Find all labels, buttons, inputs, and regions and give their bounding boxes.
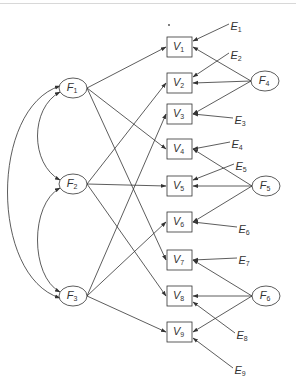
error-label-E5: E5 (235, 160, 246, 173)
error-label-E3: E3 (234, 114, 245, 127)
covariance-arrow-F1-F3 (8, 86, 61, 298)
path-arrow-F1-V7 (87, 88, 166, 260)
covariance-arrow-F2-F3 (38, 188, 61, 292)
error-label-E9: E9 (234, 364, 245, 377)
covariance-arrow-F1-F2 (38, 92, 61, 180)
error-label-E6: E6 (238, 223, 249, 236)
path-arrow-F1-V1 (87, 47, 166, 88)
path-arrow-F5-V6 (193, 186, 252, 222)
error-arrow-E6-V6 (193, 222, 237, 227)
error-arrow-E1-V1 (193, 24, 229, 41)
error-label-E4: E4 (231, 138, 242, 151)
path-arrow-F4-V3 (193, 81, 251, 114)
error-label-E8: E8 (236, 329, 247, 342)
path-arrow-F2-V2 (87, 83, 166, 184)
error-arrow-E3-V3 (193, 114, 233, 118)
error-label-E1: E1 (230, 20, 241, 33)
path-arrow-F6-V9 (193, 296, 252, 332)
path-arrow-F2-V8 (87, 184, 166, 296)
path-arrow-F3-V6 (87, 222, 166, 296)
error-arrow-E4-V4 (193, 142, 230, 149)
path-arrow-F1-V4 (87, 88, 166, 149)
sem-path-diagram: F1F2F3F4F5F6V1V2V3V4V5V6V7V8V9E1E2E3E4E5… (0, 0, 296, 387)
error-arrow-E5-V5 (193, 164, 234, 180)
path-arrow-F2-V5 (87, 184, 166, 186)
path-arrow-F3-V3 (87, 114, 166, 296)
error-arrow-E7-V7 (193, 258, 237, 260)
stray-dot (168, 24, 170, 26)
error-label-E7: E7 (238, 254, 249, 267)
path-arrow-F3-V9 (87, 296, 166, 332)
error-label-E2: E2 (230, 49, 241, 62)
path-arrow-F4-V2 (193, 81, 251, 83)
error-arrow-E9-V9 (193, 338, 233, 368)
path-arrow-F4-V1 (193, 47, 251, 81)
